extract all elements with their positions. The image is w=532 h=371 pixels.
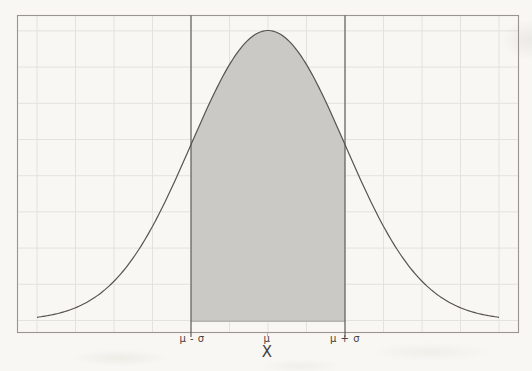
- x-tick-label-mu-plus-sigma: μ + σ: [330, 333, 360, 344]
- x-tick-label-mu-minus-sigma: μ - σ: [179, 333, 204, 344]
- normal-distribution-plot: [0, 0, 532, 371]
- scanned-statistics-figure: μ - σ μ μ + σ X: [0, 0, 532, 371]
- x-axis-label: X: [262, 343, 272, 361]
